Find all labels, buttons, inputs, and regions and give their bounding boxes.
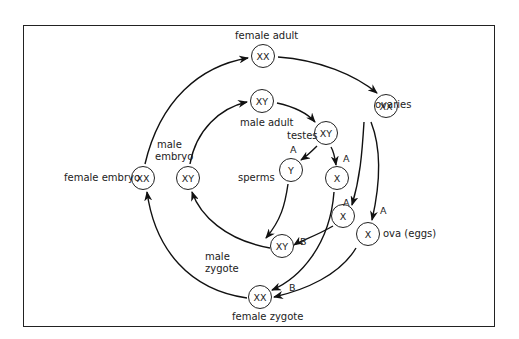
label-ovaries-text: ovaries <box>375 99 411 111</box>
label-sperms: sperms <box>238 172 275 184</box>
node-female-zygote: XX <box>248 285 272 309</box>
label-male-adult: male adult <box>240 117 294 129</box>
edge-testes-to-sperm-y <box>301 146 317 160</box>
edge-female-adult-to-ovaries <box>278 57 377 93</box>
edge-male-embryo-to-male-adult <box>190 102 247 164</box>
label-female-zygote: female zygote <box>232 311 303 323</box>
node-sperm-y: Y <box>279 158 303 182</box>
node-male-adult: XY <box>250 89 274 113</box>
marker-a-egg: A <box>343 197 350 208</box>
marker-b-female-zygote: B <box>289 282 296 293</box>
label-female-embryo: female embryo <box>64 172 140 184</box>
node-male-embryo: XY <box>176 166 200 190</box>
node-sperm-x: X <box>325 166 349 190</box>
node-testes: XY <box>314 121 338 145</box>
marker-a-ova: A <box>380 205 387 216</box>
label-male-zygote-1: male <box>205 251 230 263</box>
label-male-zygote-2: zygote <box>205 263 239 275</box>
edge-ovaries-to-egg-ova <box>371 122 379 220</box>
edge-male-zygote-to-male-embryo <box>192 192 270 248</box>
marker-b-male-zygote: B <box>300 236 307 247</box>
label-ova: ova (eggs) <box>383 228 436 240</box>
edge-ovaries-to-egg-a <box>352 122 364 205</box>
node-female-adult: XX <box>251 44 275 68</box>
node-male-zygote: XY <box>270 234 294 258</box>
edge-testes-to-sperm-x <box>331 147 336 165</box>
label-male-embryo-1: male <box>157 139 182 151</box>
edge-sperm-y-to-male-zygote <box>266 184 288 238</box>
label-female-adult: female adult <box>235 30 298 42</box>
marker-a-sperm-x: A <box>343 153 350 164</box>
node-egg-ova: X <box>356 222 380 246</box>
label-testes: testes <box>287 130 318 142</box>
label-male-embryo-2: embryo <box>155 151 193 163</box>
edge-female-zygote-to-female-embryo <box>147 192 247 298</box>
marker-a-sperm-y: A <box>290 144 297 155</box>
